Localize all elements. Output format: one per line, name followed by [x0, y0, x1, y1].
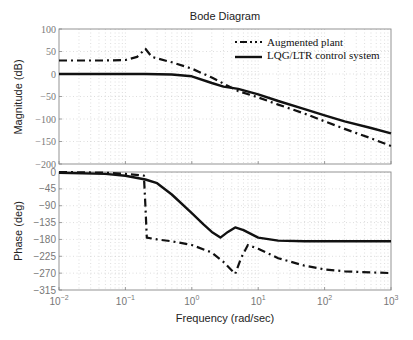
phase-plot-frame: [59, 172, 391, 290]
y-tick-label: −100: [35, 114, 56, 125]
x-tick-label: 10−1: [116, 294, 135, 307]
phase-y-label: Phase (deg): [12, 201, 24, 261]
x-axis-label: Frequency (rad/sec): [176, 312, 274, 324]
phase-y-ticks: 0−45−90−135−180−225−270−315: [33, 167, 62, 296]
phase-series: [59, 172, 391, 274]
y-tick-label: −150: [35, 136, 56, 147]
y-tick-label: −50: [40, 91, 56, 102]
magnitude-y-ticks: 100500−50−100−150−200: [35, 24, 62, 170]
augmented-plant-phase-line: [59, 172, 391, 274]
augmented-plant-magnitude-line: [59, 49, 391, 146]
y-tick-label: −90: [39, 200, 56, 211]
chart-title: Bode Diagram: [190, 10, 260, 22]
y-tick-label: −45: [39, 183, 56, 194]
y-tick-label: −180: [33, 234, 56, 245]
y-tick-label: 100: [41, 24, 56, 35]
lqg-ltr-magnitude-line: [59, 74, 391, 133]
y-tick-label: 0: [51, 69, 56, 80]
bode-chart: Bode Diagram 100500−50−100−150−200 0−45−…: [0, 0, 413, 340]
y-tick-label: −135: [33, 217, 56, 228]
x-tick-label: 10−2: [49, 294, 68, 307]
y-tick-label: −315: [33, 285, 56, 296]
magnitude-y-label: Magnitude (dB): [12, 59, 24, 134]
magnitude-series: [59, 49, 391, 146]
x-tick-label: 101: [251, 294, 266, 307]
phase-grid: [59, 172, 391, 290]
y-tick-label: −270: [33, 268, 56, 279]
y-tick-label: 0: [50, 167, 56, 178]
y-tick-label: 50: [46, 46, 56, 57]
y-tick-label: −225: [33, 251, 56, 262]
x-tick-label: 100: [184, 294, 199, 307]
x-tick-label: 103: [383, 294, 398, 307]
lqg-ltr-phase-line: [59, 173, 391, 242]
legend: Augmented plant LQG/LTR control system: [235, 36, 380, 61]
x-tick-label: 102: [317, 294, 332, 307]
legend-label-lqg-ltr: LQG/LTR control system: [267, 49, 380, 61]
legend-label-augmented-plant: Augmented plant: [267, 36, 343, 48]
